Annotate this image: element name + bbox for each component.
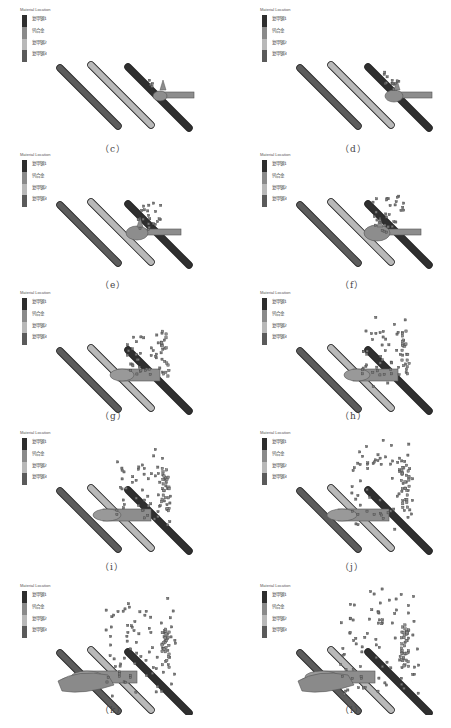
legend-label-2: 钨合金	[272, 603, 287, 615]
legend-title: Material Location	[260, 430, 290, 435]
legend-color-bar	[22, 298, 27, 345]
material-legend: Material Location 复甲钢1 钨合金 复甲钢2 复甲钢3	[260, 152, 290, 157]
penetration-scene	[226, 283, 451, 433]
legend-label-4: 复甲钢3	[32, 333, 47, 345]
legend-swatch-3	[22, 39, 27, 51]
legend-swatch-2	[22, 450, 27, 462]
panel-caption-k: （k）	[100, 703, 126, 716]
legend-swatch-3	[262, 615, 267, 627]
legend-color-bar	[262, 591, 267, 638]
legend-color-bar	[262, 298, 267, 345]
legend-swatch-2	[262, 27, 267, 39]
legend-label-2: 钨合金	[272, 450, 287, 462]
legend-title: Material Location	[20, 290, 50, 295]
legend-label-3: 复甲钢2	[32, 322, 47, 334]
legend-labels: 复甲钢1 钨合金 复甲钢2 复甲钢3	[272, 298, 287, 345]
legend-label-3: 复甲钢2	[272, 322, 287, 334]
material-legend: Material Location 复甲钢1 钨合金 复甲钢2 复甲钢3	[20, 7, 50, 12]
legend-swatch-1	[262, 160, 267, 172]
penetration-scene	[226, 423, 451, 573]
legend-label-3: 复甲钢2	[32, 462, 47, 474]
legend-title: Material Location	[260, 583, 290, 588]
legend-swatch-1	[22, 438, 27, 450]
legend-color-bar	[22, 160, 27, 207]
legend-title: Material Location	[260, 7, 290, 12]
legend-label-2: 钨合金	[32, 450, 47, 462]
legend-label-1: 复甲钢1	[272, 591, 287, 603]
legend-label-3: 复甲钢2	[272, 184, 287, 196]
legend-label-1: 复甲钢1	[32, 438, 47, 450]
legend-swatch-2	[262, 172, 267, 184]
legend-label-4: 复甲钢3	[32, 626, 47, 638]
legend-label-2: 钨合金	[272, 310, 287, 322]
legend-swatch-3	[22, 462, 27, 474]
legend-color-bar	[262, 160, 267, 207]
legend-label-2: 钨合金	[32, 27, 47, 39]
legend-swatch-2	[262, 310, 267, 322]
legend-title: Material Location	[260, 290, 290, 295]
legend-label-3: 复甲钢2	[272, 615, 287, 627]
legend-swatch-2	[262, 450, 267, 462]
material-legend: Material Location 复甲钢1 钨合金 复甲钢2 复甲钢3	[260, 583, 290, 588]
legend-swatch-3	[262, 184, 267, 196]
legend-swatch-1	[22, 298, 27, 310]
legend-swatch-4	[262, 195, 267, 207]
legend-swatch-4	[22, 195, 27, 207]
legend-label-4: 复甲钢3	[272, 195, 287, 207]
projectile-debris	[298, 588, 420, 695]
material-legend: Material Location 复甲钢1 钨合金 复甲钢2 复甲钢3	[260, 430, 290, 435]
legend-swatch-3	[22, 184, 27, 196]
legend-labels: 复甲钢1 钨合金 复甲钢2 复甲钢3	[32, 438, 47, 485]
legend-title: Material Location	[20, 7, 50, 12]
material-legend: Material Location 复甲钢1 钨合金 复甲钢2 复甲钢3	[20, 290, 50, 295]
legend-swatch-3	[22, 615, 27, 627]
legend-label-3: 复甲钢2	[32, 615, 47, 627]
legend-label-1: 复甲钢1	[32, 298, 47, 310]
legend-label-4: 复甲钢3	[32, 473, 47, 485]
legend-label-4: 复甲钢3	[272, 473, 287, 485]
legend-swatch-1	[22, 15, 27, 27]
legend-label-4: 复甲钢3	[272, 50, 287, 62]
legend-label-1: 复甲钢1	[272, 298, 287, 310]
material-legend: Material Location 复甲钢1 钨合金 复甲钢2 复甲钢3	[260, 7, 290, 12]
material-legend: Material Location 复甲钢1 钨合金 复甲钢2 复甲钢3	[20, 152, 50, 157]
projectile-debris	[364, 195, 421, 241]
material-legend: Material Location 复甲钢1 钨合金 复甲钢2 复甲钢3	[20, 583, 50, 588]
projectile-debris	[344, 316, 410, 387]
legend-swatch-4	[22, 50, 27, 62]
legend-labels: 复甲钢1 钨合金 复甲钢2 复甲钢3	[32, 591, 47, 638]
legend-labels: 复甲钢1 钨合金 复甲钢2 复甲钢3	[272, 591, 287, 638]
legend-title: Material Location	[20, 152, 50, 157]
legend-label-4: 复甲钢3	[32, 50, 47, 62]
legend-label-1: 复甲钢1	[272, 438, 287, 450]
legend-title: Material Location	[20, 583, 50, 588]
legend-swatch-4	[22, 626, 27, 638]
legend-labels: 复甲钢1 钨合金 复甲钢2 复甲钢3	[272, 15, 287, 62]
legend-label-2: 钨合金	[32, 310, 47, 322]
material-legend: Material Location 复甲钢1 钨合金 复甲钢2 复甲钢3	[20, 430, 50, 435]
legend-swatch-2	[22, 310, 27, 322]
legend-swatch-1	[262, 438, 267, 450]
legend-swatch-1	[262, 298, 267, 310]
legend-label-1: 复甲钢1	[32, 591, 47, 603]
legend-label-2: 钨合金	[272, 172, 287, 184]
legend-title: Material Location	[20, 430, 50, 435]
legend-label-1: 复甲钢1	[32, 160, 47, 172]
legend-label-4: 复甲钢3	[272, 626, 287, 638]
panel-caption-l: （l）	[340, 703, 364, 716]
projectile-debris	[327, 439, 414, 530]
legend-labels: 复甲钢1 钨合金 复甲钢2 复甲钢3	[32, 15, 47, 62]
legend-swatch-1	[22, 591, 27, 603]
projectile-debris	[110, 330, 170, 381]
legend-labels: 复甲钢1 钨合金 复甲钢2 复甲钢3	[272, 438, 287, 485]
legend-swatch-3	[22, 322, 27, 334]
legend-label-3: 复甲钢2	[32, 184, 47, 196]
legend-label-1: 复甲钢1	[272, 15, 287, 27]
legend-color-bar	[262, 438, 267, 485]
material-legend: Material Location 复甲钢1 钨合金 复甲钢2 复甲钢3	[260, 290, 290, 295]
legend-labels: 复甲钢1 钨合金 复甲钢2 复甲钢3	[32, 160, 47, 207]
legend-label-3: 复甲钢2	[272, 39, 287, 51]
legend-labels: 复甲钢1 钨合金 复甲钢2 复甲钢3	[272, 160, 287, 207]
legend-swatch-4	[262, 333, 267, 345]
legend-label-1: 复甲钢1	[32, 15, 47, 27]
